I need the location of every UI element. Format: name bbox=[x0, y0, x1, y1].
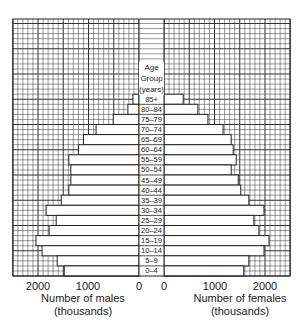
age-group-label: 5–9 bbox=[145, 256, 158, 265]
age-group-label: 0–4 bbox=[145, 266, 158, 275]
male-bar bbox=[128, 104, 139, 114]
age-header-line1: Age bbox=[139, 62, 164, 73]
male-bar bbox=[69, 155, 139, 165]
population-pyramid-chart: 85+80–8475–7970–7465–6960–6455–5950–5445… bbox=[0, 0, 301, 327]
tick-male-0: 0 bbox=[136, 280, 142, 292]
female-bar bbox=[164, 266, 244, 276]
age-header-line3: (years) bbox=[139, 84, 164, 95]
age-group-label: 75–79 bbox=[141, 115, 162, 124]
age-group-label: 80–84 bbox=[141, 105, 162, 114]
female-bar bbox=[164, 236, 269, 246]
female-axis-unit: (thousands) bbox=[180, 305, 300, 318]
age-group-label: 10–14 bbox=[141, 246, 162, 255]
tick-female-1000: 1000 bbox=[203, 280, 227, 292]
female-bar bbox=[164, 205, 264, 215]
male-bar bbox=[49, 226, 139, 236]
female-bar bbox=[164, 246, 264, 256]
female-bar bbox=[164, 145, 233, 155]
male-bar bbox=[61, 195, 139, 205]
age-group-label: 85+ bbox=[145, 95, 158, 104]
male-bar bbox=[78, 145, 139, 155]
age-label-column: 85+80–8475–7970–7465–6960–6455–5950–5445… bbox=[139, 19, 164, 276]
age-group-label: 35–39 bbox=[141, 196, 162, 205]
female-bar bbox=[164, 226, 259, 236]
female-bar bbox=[164, 215, 254, 225]
male-bar bbox=[57, 256, 139, 266]
male-bar bbox=[113, 114, 139, 124]
male-bar bbox=[46, 205, 139, 215]
male-bar bbox=[83, 135, 139, 145]
female-bar bbox=[164, 125, 223, 135]
age-group-label: 70–74 bbox=[141, 125, 162, 134]
male-bar bbox=[71, 165, 139, 175]
female-bar bbox=[164, 185, 241, 195]
male-bar bbox=[96, 125, 139, 135]
age-header-line2: Group bbox=[139, 73, 164, 84]
male-axis-unit: (thousands) bbox=[28, 305, 138, 318]
male-bar bbox=[56, 215, 139, 225]
female-bar bbox=[164, 165, 231, 175]
tick-male-1000: 1000 bbox=[76, 280, 100, 292]
female-bar bbox=[164, 256, 249, 266]
age-group-label: 20–24 bbox=[141, 226, 162, 235]
age-group-label: 55–59 bbox=[141, 155, 162, 164]
age-group-label: 65–69 bbox=[141, 135, 162, 144]
female-bar bbox=[164, 104, 198, 114]
male-bar bbox=[69, 185, 139, 195]
male-bar bbox=[71, 175, 139, 185]
female-bar bbox=[164, 195, 249, 205]
male-bar bbox=[64, 266, 139, 276]
male-axis-label: Number of males bbox=[28, 292, 138, 305]
age-group-label: 30–34 bbox=[141, 206, 162, 215]
female-bar bbox=[164, 94, 183, 104]
male-bar bbox=[42, 246, 139, 256]
male-bar bbox=[36, 236, 139, 246]
female-bar bbox=[164, 135, 231, 145]
age-group-label: 45–49 bbox=[141, 176, 162, 185]
male-bar bbox=[133, 94, 139, 104]
age-group-label: 60–64 bbox=[141, 145, 162, 154]
tick-male-2000: 2000 bbox=[26, 280, 50, 292]
age-group-label: 25–29 bbox=[141, 216, 162, 225]
female-bar bbox=[164, 155, 236, 165]
age-group-label: 50–54 bbox=[141, 165, 162, 174]
female-axis-label: Number of females bbox=[180, 292, 300, 305]
age-group-label: 40–44 bbox=[141, 186, 162, 195]
female-bar bbox=[164, 114, 208, 124]
tick-female-2000: 2000 bbox=[253, 280, 277, 292]
age-group-label: 15–19 bbox=[141, 236, 162, 245]
tick-female-0: 0 bbox=[161, 280, 167, 292]
female-bar bbox=[164, 175, 238, 185]
